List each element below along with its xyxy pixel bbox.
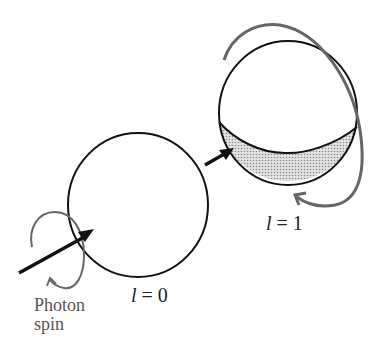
l0-sphere [68, 133, 208, 277]
photon-spin-label: Photon spin [34, 296, 85, 334]
l0-label: l = 0 [131, 284, 168, 307]
l1-label: l = 1 [266, 212, 303, 235]
photon-arrow-icon [19, 236, 86, 273]
l-value: = 1 [272, 212, 303, 234]
angular-momentum-diagram: l = 0 l = 1 Photon spin [0, 0, 376, 348]
l1-sphere-shaded [219, 122, 357, 181]
photon-label-line1: Photon [34, 296, 85, 315]
photon-label-line2: spin [34, 315, 85, 334]
l-value: = 0 [137, 284, 168, 306]
